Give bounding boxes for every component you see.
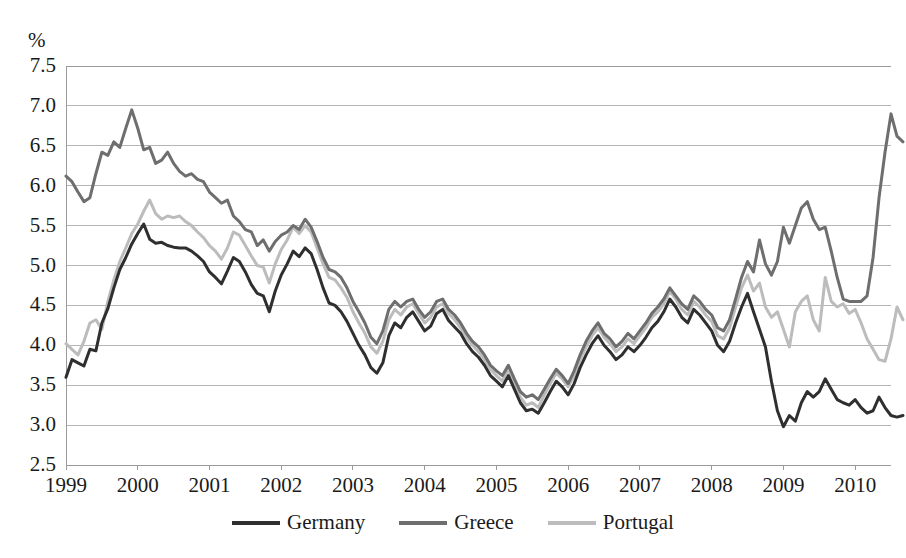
x-tick-label: 2005	[461, 475, 531, 496]
y-tick-label: 2.5	[8, 454, 56, 475]
legend-label: Greece	[454, 512, 513, 533]
legend-color-swatch	[232, 521, 280, 525]
legend-label: Germany	[287, 512, 365, 533]
y-tick-label: 7.5	[8, 55, 56, 76]
y-tick-label: 5.5	[8, 215, 56, 236]
legend-entry[interactable]: Germany	[232, 512, 365, 533]
legend-entry[interactable]: Portugal	[548, 512, 674, 533]
x-tick-label: 2006	[533, 475, 603, 496]
legend-label: Portugal	[603, 512, 674, 533]
y-tick-label: 6.5	[8, 135, 56, 156]
y-tick-label: 3.0	[8, 414, 56, 435]
x-tick-label: 2003	[318, 475, 388, 496]
y-tick-label: 4.0	[8, 334, 56, 355]
chart-legend: GermanyGreecePortugal	[0, 512, 906, 533]
bond-yield-chart: % 7.57.06.56.05.55.04.54.03.53.02.5 1999…	[0, 0, 906, 558]
x-tick-label: 2004	[390, 475, 460, 496]
legend-color-swatch	[548, 521, 596, 525]
y-tick-label: 7.0	[8, 95, 56, 116]
x-tick-label: 2010	[820, 475, 890, 496]
y-tick-label: 4.5	[8, 294, 56, 315]
legend-color-swatch	[399, 521, 447, 525]
x-tick-label: 2007	[605, 475, 675, 496]
y-tick-label: 5.0	[8, 255, 56, 276]
x-tick-label: 2002	[246, 475, 316, 496]
x-tick-label: 2000	[103, 475, 173, 496]
y-tick-label: 3.5	[8, 374, 56, 395]
legend-entry[interactable]: Greece	[399, 512, 513, 533]
x-tick-label: 2009	[748, 475, 818, 496]
x-tick-label: 1999	[31, 475, 101, 496]
y-tick-label: 6.0	[8, 175, 56, 196]
x-tick-label: 2008	[677, 475, 747, 496]
x-tick-label: 2001	[174, 475, 244, 496]
